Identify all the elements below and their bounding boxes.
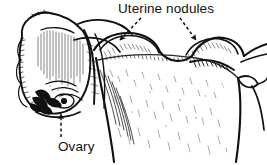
ligament-lower-branch (252, 86, 264, 130)
ligament-node (238, 76, 258, 87)
broad-ligament-right-group (238, 44, 267, 130)
anatomy-figure: Uterine nodules Ovary (0, 0, 267, 165)
tube-upper (78, 20, 132, 34)
ovary-group (17, 10, 91, 117)
fimbriae-group (30, 90, 61, 113)
uterine-body-dots (131, 91, 206, 126)
label-uterine-nodules: Uterine nodules (118, 1, 214, 16)
anatomy-line-drawing (0, 0, 267, 165)
ligament-edge (258, 78, 267, 84)
label-ovary: Ovary (58, 139, 95, 154)
uterine-body-outline-right (236, 78, 240, 162)
leader-nodule-right (180, 18, 196, 40)
uterus-group (94, 33, 244, 162)
uterine-body-stipple (110, 70, 228, 156)
